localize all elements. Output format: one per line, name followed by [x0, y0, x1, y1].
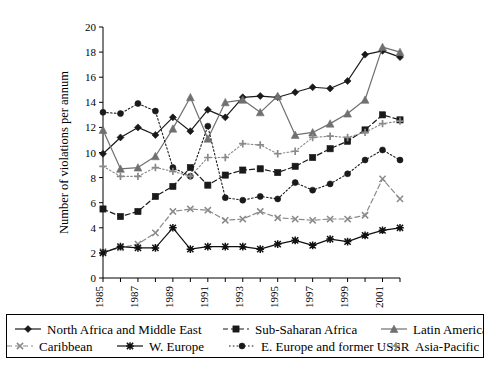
data-point [379, 176, 385, 182]
data-point [310, 187, 316, 193]
data-point [186, 93, 194, 100]
data-point [170, 183, 176, 189]
data-point [222, 172, 228, 178]
data-point [135, 208, 141, 214]
data-point [152, 193, 158, 199]
x-tick-label-2001: 2001 [373, 286, 385, 308]
data-point [257, 166, 263, 172]
y-tick-label-10: 10 [85, 147, 97, 159]
data-point [379, 43, 387, 50]
legend-label: North Africa and Middle East [47, 322, 202, 337]
legend-item-sub-saharan-africa[interactable]: Sub-Saharan Africa [223, 322, 357, 337]
data-point [117, 213, 123, 219]
data-point [257, 208, 263, 214]
series-line [103, 47, 400, 169]
y-tick-label-0: 0 [91, 272, 97, 284]
data-point [326, 120, 334, 127]
y-axis-title: Number of violations per annum [57, 71, 71, 234]
series-asia-pacific [99, 117, 403, 180]
series-line [103, 104, 400, 201]
data-point [326, 132, 333, 139]
legend-item-e-europe-and-former-ussr[interactable]: E. Europe and former USSR [229, 339, 410, 354]
data-point [239, 243, 247, 251]
data-point [222, 195, 228, 201]
data-point [274, 240, 282, 248]
legend-label: Caribbean [39, 339, 93, 354]
data-point [117, 173, 124, 180]
chart-figure: 0246810121416182019851987198919911993199… [0, 0, 492, 375]
data-point [397, 157, 403, 163]
legend-label: Latin America [413, 322, 483, 337]
data-point [345, 171, 351, 177]
data-point [327, 146, 333, 152]
data-point [99, 249, 107, 257]
data-point [169, 125, 177, 132]
data-point [256, 245, 264, 253]
data-point [134, 124, 141, 131]
data-point [134, 244, 142, 252]
data-point [257, 93, 264, 100]
data-point [396, 224, 404, 232]
data-point [275, 196, 281, 202]
legend-item-latin-america[interactable]: Latin America [381, 322, 483, 337]
data-point [309, 242, 317, 250]
legend-item-north-africa-and-middle-east[interactable]: North Africa and Middle East [15, 322, 202, 337]
legend-marker [25, 326, 32, 333]
plot-area: 0246810121416182019851987198919911993199… [0, 0, 492, 310]
data-point [379, 120, 386, 127]
x-tick-label-1989: 1989 [163, 286, 175, 309]
data-point [222, 217, 228, 223]
data-point [170, 208, 176, 214]
data-point [117, 243, 125, 251]
data-point [379, 112, 385, 118]
x-tick-label-1995: 1995 [268, 286, 280, 309]
x-tick-label-1993: 1993 [233, 286, 245, 309]
data-point [327, 85, 334, 92]
y-tick-label-12: 12 [85, 121, 96, 133]
data-point [221, 243, 229, 251]
legend-item-caribbean[interactable]: Caribbean [7, 339, 93, 354]
data-point [152, 244, 160, 252]
y-tick-label-18: 18 [85, 46, 97, 58]
legend-label: Asia-Pacific [415, 339, 479, 354]
axis-lines [103, 27, 400, 278]
x-tick-label-1997: 1997 [303, 286, 315, 309]
data-point [187, 245, 195, 253]
data-point [292, 180, 298, 186]
y-tick-label-6: 6 [91, 197, 97, 209]
data-point [327, 181, 333, 187]
data-point [239, 140, 246, 147]
series-line [103, 179, 400, 252]
data-point [204, 243, 212, 251]
legend-item-w-europe[interactable]: W. Europe [117, 339, 204, 354]
data-point [240, 197, 246, 203]
x-tick-label-1991: 1991 [198, 286, 210, 308]
legend-marker [126, 342, 134, 350]
y-tick-label-16: 16 [85, 71, 97, 83]
data-point [152, 230, 158, 236]
data-point [291, 237, 299, 245]
data-point [205, 123, 211, 129]
x-tick-label-1985: 1985 [93, 286, 105, 309]
data-point [240, 167, 246, 173]
legend-marker [233, 326, 239, 332]
data-point [275, 169, 281, 175]
data-point [135, 101, 141, 107]
series-w-europe [99, 224, 404, 257]
data-point [117, 111, 123, 117]
data-point [397, 196, 403, 202]
x-tick-label-1987: 1987 [128, 286, 140, 309]
data-point [380, 147, 386, 153]
data-point [361, 232, 369, 240]
data-point [100, 109, 106, 115]
data-point [292, 89, 299, 96]
data-point [152, 164, 159, 171]
x-tick-label-1999: 1999 [338, 286, 350, 309]
data-point [205, 182, 211, 188]
data-point [274, 92, 282, 99]
data-point [257, 141, 264, 148]
series-line [103, 115, 400, 217]
y-tick-label-8: 8 [91, 172, 97, 184]
data-point [310, 154, 316, 160]
y-tick-label-20: 20 [85, 21, 97, 33]
